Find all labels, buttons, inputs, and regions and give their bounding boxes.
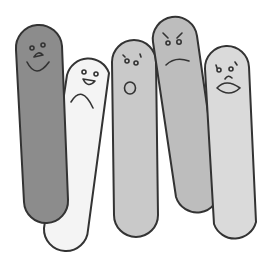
surprised-stick-character [112,40,158,237]
popsicle-characters-illustration [0,0,272,264]
worried-stick-character [205,46,256,239]
happy-stick-character [16,25,68,223]
